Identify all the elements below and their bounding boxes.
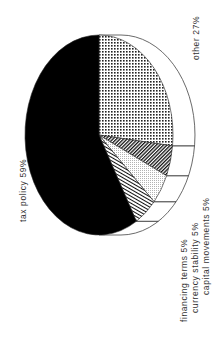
pie-chart: tax policy 59% financing terms 5% curren…: [0, 0, 222, 353]
label-financing-terms: financing terms 5%: [179, 239, 189, 322]
label-currency-stability: currency stability 5%: [190, 222, 200, 313]
label-capital-movements: capital movements 5%: [201, 197, 211, 295]
label-other: other 27%: [191, 16, 201, 60]
pie-slices: [25, 35, 173, 235]
label-tax-policy: tax policy 59%: [18, 159, 28, 222]
